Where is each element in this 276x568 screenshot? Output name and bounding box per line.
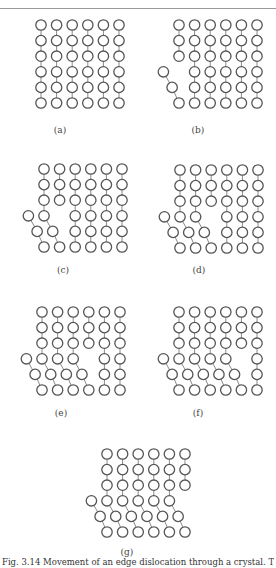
panel-label: (g): [107, 547, 147, 557]
atom-circle: [86, 496, 96, 506]
atom-circle: [133, 496, 143, 506]
atom-circle: [149, 527, 159, 537]
atom-circle: [133, 527, 143, 537]
atom-circle: [95, 511, 105, 521]
lattice-diagram: [0, 0, 276, 568]
atom-circle: [180, 527, 190, 537]
atom-circle: [180, 464, 190, 474]
atom-circle: [111, 511, 121, 521]
atom-circle: [102, 527, 112, 537]
atom-circle: [117, 480, 127, 490]
atom-circle: [164, 496, 174, 506]
atom-circle: [149, 480, 159, 490]
atom-circle: [117, 496, 127, 506]
atom-circle: [142, 511, 152, 521]
atom-circle: [102, 464, 112, 474]
atom-circle: [180, 449, 190, 459]
atom-circle: [102, 480, 112, 490]
atom-circle: [133, 449, 143, 459]
atom-circle: [133, 464, 143, 474]
atom-circle: [149, 464, 159, 474]
atom-circle: [157, 511, 167, 521]
atom-circle: [164, 449, 174, 459]
atom-circle: [133, 480, 143, 490]
atom-circle: [164, 527, 174, 537]
figure-caption: Fig. 3.14 Movement of an edge dislocatio…: [2, 557, 274, 567]
atom-circle: [149, 449, 159, 459]
atom-circle: [180, 480, 190, 490]
atom-circle: [164, 464, 174, 474]
atom-circle: [117, 527, 127, 537]
atom-circle: [173, 511, 183, 521]
atom-circle: [164, 480, 174, 490]
atom-circle: [102, 496, 112, 506]
atom-circle: [117, 449, 127, 459]
atom-circle: [117, 464, 127, 474]
atom-circle: [102, 449, 112, 459]
atom-circle: [126, 511, 136, 521]
atom-circle: [149, 496, 159, 506]
